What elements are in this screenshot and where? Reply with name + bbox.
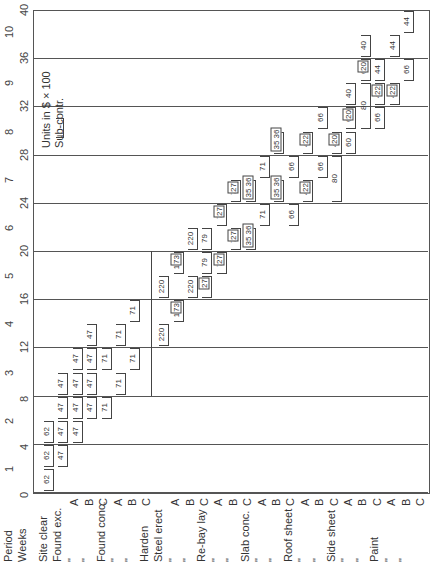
weeks-tick: 28 — [18, 148, 30, 160]
bar-value: 47 — [56, 443, 65, 467]
activity-sub-label: A — [256, 499, 268, 506]
bar-value: 79 — [200, 251, 209, 275]
sub-contractor-value: 27 — [214, 248, 223, 272]
sub-contractor-value: 35 36 — [243, 175, 252, 199]
bar-value: 71 — [114, 323, 123, 347]
bar-value: 220 — [157, 323, 166, 347]
activity-sub-label: C — [241, 498, 253, 506]
bar-value: 62 — [42, 467, 51, 491]
bar-value: 71 — [99, 395, 108, 419]
bar-value: 62 — [42, 419, 51, 443]
harden-line — [151, 251, 152, 396]
bar-value: 44 — [373, 58, 382, 82]
period-tick: 3 — [3, 369, 15, 375]
activity-label: Found exc. — [51, 508, 63, 562]
bar-value: 44 — [387, 34, 396, 58]
period-tick: 7 — [3, 177, 15, 183]
activity-label: " — [267, 558, 279, 562]
activity-label: " — [383, 558, 395, 562]
activity-sub-label: B — [184, 499, 196, 506]
sub-contractor-value: 35 36 — [243, 223, 252, 247]
bar-value: 47 — [70, 419, 79, 443]
legend-units: Units in $ × 100 — [40, 71, 52, 148]
period-tick: 1 — [3, 466, 15, 472]
weeks-tick: 20 — [18, 245, 30, 257]
bar-value: 71 — [128, 299, 137, 323]
activity-sub-label: C — [284, 498, 296, 506]
activity-sub-label: B — [400, 499, 412, 506]
period-tick: 2 — [3, 418, 15, 424]
activity-label: Steel erect — [152, 509, 164, 562]
sub-contractor-value: 73 — [171, 248, 180, 272]
linear-schedule-chart: 048121620242832364012345678910PeriodWeek… — [0, 0, 438, 564]
gridline-week-20 — [33, 251, 428, 252]
activity-sub-label: A — [112, 499, 124, 506]
bar-value: 71 — [114, 371, 123, 395]
activity-label: Harden — [138, 526, 150, 562]
sub-contractor-value: 22 — [301, 127, 310, 151]
activity-label: Site clear — [37, 516, 49, 562]
weeks-tick: 32 — [18, 100, 30, 112]
bar-value: 71 — [258, 154, 267, 178]
sub-contractor-value: 22 — [387, 79, 396, 103]
activity-sub-label: A — [299, 499, 311, 506]
activity-label: " — [311, 558, 323, 562]
activity-sub-label: A — [342, 499, 354, 506]
activity-label: " — [181, 558, 193, 562]
gridline-week-4 — [33, 444, 428, 445]
activity-label: Found conc. — [95, 501, 107, 562]
bar-value: 47 — [85, 347, 94, 371]
sub-contractor-value: 20 — [330, 127, 339, 151]
bar-value: 220 — [157, 275, 166, 299]
activity-sub-label: C — [140, 498, 152, 506]
sub-contractor-value: 35 36 — [272, 175, 281, 199]
sub-contractor-value: 27 — [229, 223, 238, 247]
bar-value: 47 — [56, 395, 65, 419]
activity-label: " — [397, 558, 409, 562]
activity-label: " — [109, 558, 121, 562]
activity-sub-label: B — [227, 499, 239, 506]
bar-value: 62 — [42, 443, 51, 467]
activity-sub-label: B — [356, 499, 368, 506]
sub-contractor-value: 27 — [200, 272, 209, 296]
weeks-tick: 0 — [18, 492, 30, 498]
activity-sub-label: A — [212, 499, 224, 506]
activity-sub-label: A — [385, 499, 397, 506]
period-tick: 8 — [3, 128, 15, 134]
period-tick: 10 — [3, 26, 15, 38]
bar-value: 66 — [286, 154, 295, 178]
bar-value: 66 — [315, 154, 324, 178]
activity-label: Side sheet — [325, 510, 337, 562]
activity-label: Slab conc. — [239, 511, 251, 562]
bar-value: 47 — [70, 395, 79, 419]
activity-sub-label: B — [270, 499, 282, 506]
bar-value: 47 — [70, 371, 79, 395]
gridline-week-24 — [33, 203, 428, 204]
gridline-week-16 — [33, 299, 428, 300]
sub-contractor-value: 73 — [171, 296, 180, 320]
bar-value: 47 — [70, 347, 79, 371]
activity-sub-label: C — [371, 498, 383, 506]
sub-contractor-value: 22 — [301, 175, 310, 199]
weeks-axis-label: Weeks — [16, 529, 28, 562]
period-tick: 4 — [3, 321, 15, 327]
bar-value: 79 — [200, 226, 209, 250]
activity-sub-label: B — [313, 499, 325, 506]
activity-label: " — [296, 558, 308, 562]
weeks-tick: 16 — [18, 293, 30, 305]
bar-value: 80 — [330, 166, 339, 190]
weeks-tick: 4 — [18, 444, 30, 450]
bar-value: 44 — [402, 10, 411, 34]
bar-value: 66 — [373, 106, 382, 130]
sub-contractor-value: 20 — [344, 103, 353, 127]
weeks-tick: 36 — [18, 52, 30, 64]
activity-sub-label: A — [169, 499, 181, 506]
period-axis-label: Period — [2, 530, 14, 562]
period-tick: 6 — [3, 225, 15, 231]
activity-label: " — [167, 558, 179, 562]
period-tick: 5 — [3, 273, 15, 279]
activity-label: " — [66, 558, 78, 562]
bar-value: 220 — [186, 275, 195, 299]
bar-value: 47 — [85, 395, 94, 419]
bar-value: 71 — [258, 202, 267, 226]
